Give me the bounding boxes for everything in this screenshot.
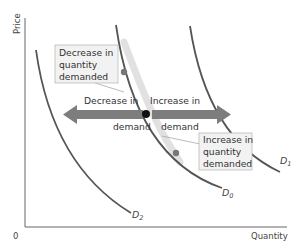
origin-label: 0 bbox=[13, 231, 18, 241]
decrease-demand-label-1: Decrease in bbox=[84, 95, 139, 106]
callout-lower-line-2: quantity bbox=[203, 146, 242, 157]
y-axis-label: Price bbox=[12, 13, 22, 34]
callout-leader-upper bbox=[95, 83, 124, 92]
original-point bbox=[142, 110, 150, 118]
decrease-demand-label-2: demand bbox=[113, 121, 151, 132]
increase-demand-label-1: Increase in bbox=[150, 95, 200, 106]
callout-lower-line-3: demanded bbox=[203, 158, 252, 169]
label-d2: D2 bbox=[132, 209, 143, 222]
callout-upper-line-1: Decrease in bbox=[59, 47, 114, 58]
demand-diagram: Price Quantity 0 D2 D0 D1 Decrease in de… bbox=[0, 0, 303, 245]
label-d1: D1 bbox=[280, 155, 291, 168]
callout-upper-line-3: demanded bbox=[59, 71, 108, 82]
lower-movement-point bbox=[173, 150, 179, 156]
callout-upper-line-2: quantity bbox=[59, 59, 98, 70]
increase-demand-label-2: demand bbox=[161, 121, 199, 132]
x-axis-label: Quantity bbox=[251, 231, 288, 241]
label-d0: D0 bbox=[222, 187, 233, 200]
callout-lower-line-1: Increase in bbox=[203, 134, 253, 145]
callout-decrease-quantity: Decrease in quantity demanded bbox=[55, 45, 124, 92]
upper-movement-point bbox=[121, 69, 127, 75]
